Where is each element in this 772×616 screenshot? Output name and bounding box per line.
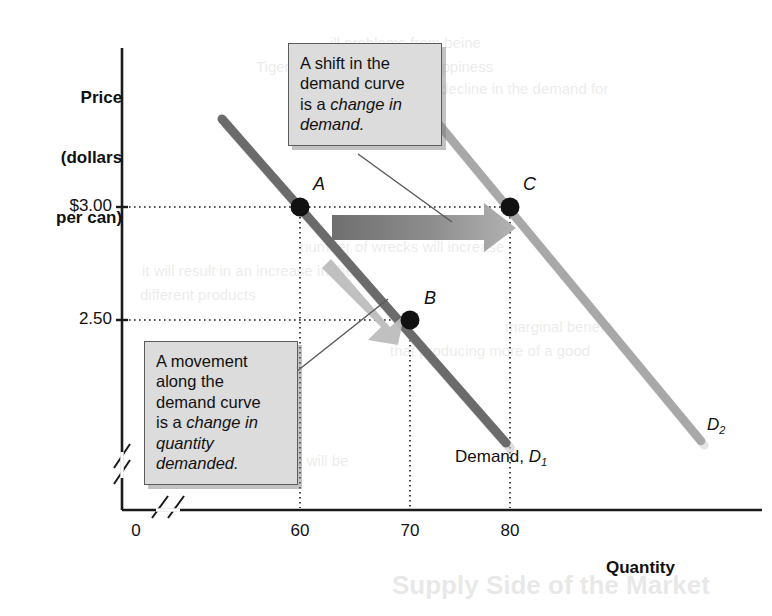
callout-movement-along-curve: A movement along the demand curve is a c…	[144, 341, 298, 485]
point-a-dot	[291, 198, 310, 217]
callout-shift-in-demand: A shift in the demand curve is a change …	[288, 43, 442, 146]
d1-prefix: Demand,	[455, 447, 529, 466]
demand-curve-d1-label: Demand, D1	[455, 447, 547, 469]
demand-curve-d2	[437, 122, 704, 445]
x-tick-label-70: 70	[396, 521, 424, 541]
callout-shift-line3-plain: is a	[300, 95, 330, 113]
x-tick-label-60: 60	[286, 521, 314, 541]
point-a-label: A	[313, 174, 325, 195]
x-axis-title: Quantity (millions of cans per day)	[606, 518, 716, 616]
callout-movement-line4-italic: change in	[186, 413, 258, 431]
x-axis-title-line1: Quantity	[606, 558, 716, 578]
x-tick-label-80: 80	[496, 521, 524, 541]
d2-subscript: 2	[719, 424, 725, 436]
callout-movement-line5: quantity	[156, 433, 286, 453]
figure-canvas: ill problems from beine Tiger Woods' gol…	[0, 0, 772, 616]
callout-shift-line3-italic: change in	[330, 95, 402, 113]
x-tick-label-origin: 0	[122, 521, 150, 541]
y-axis-title-line1: Price	[56, 88, 122, 108]
y-tick-label-300: $3.00	[54, 196, 112, 216]
callout-movement-line4: is a change in	[156, 412, 286, 432]
demand-curve-d2-label: D2	[707, 415, 725, 437]
callout-shift-line2: demand curve	[300, 73, 430, 93]
d1-subscript: 1	[541, 456, 547, 468]
point-b-dot	[401, 311, 420, 330]
callout-shift-line3: is a change in	[300, 94, 430, 114]
callout-movement-line2: along the	[156, 371, 286, 391]
y-axis-title: Price (dollars per can)	[56, 48, 122, 269]
point-c-label: C	[523, 174, 536, 195]
point-c-dot	[501, 198, 520, 217]
callout-movement-line6-italic: demanded.	[156, 454, 239, 472]
callout-movement-line4-plain: is a	[156, 413, 186, 431]
y-tick-label-250: 2.50	[54, 309, 112, 329]
callout-shift-line4-italic: demand.	[300, 115, 364, 133]
callout-shift-line4: demand.	[300, 114, 430, 134]
point-b-label: B	[424, 288, 436, 309]
y-axis-title-line2: (dollars	[56, 148, 122, 168]
callout-movement-line5-italic: quantity	[156, 434, 214, 452]
d2-symbol: D	[707, 415, 719, 434]
callout-shift-line1: A shift in the	[300, 53, 430, 73]
callout-movement-line1: A movement	[156, 351, 286, 371]
callout-movement-line3: demand curve	[156, 392, 286, 412]
shift-arrow	[332, 203, 516, 252]
d1-symbol: D	[529, 447, 541, 466]
movement-arrow	[322, 259, 404, 345]
callout-movement-line6: demanded.	[156, 453, 286, 473]
